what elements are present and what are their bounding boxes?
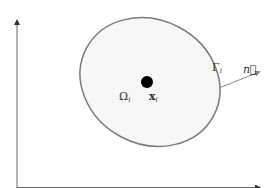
omega-subscript: i [128,96,130,104]
domain-diagram [0,0,270,188]
label-omega-i: Ωi [119,91,130,104]
point-x-i [141,76,153,88]
normal-symbol: n⃗ [243,63,257,76]
label-x-i: xi [149,91,158,104]
gamma-symbol: Γ [212,61,220,74]
x-subscript: i [156,96,158,104]
gamma-subscript: i [220,67,222,75]
label-gamma-i: Γi [212,62,222,75]
label-normal-n: n⃗ [243,64,257,75]
omega-symbol: Ω [119,90,128,103]
